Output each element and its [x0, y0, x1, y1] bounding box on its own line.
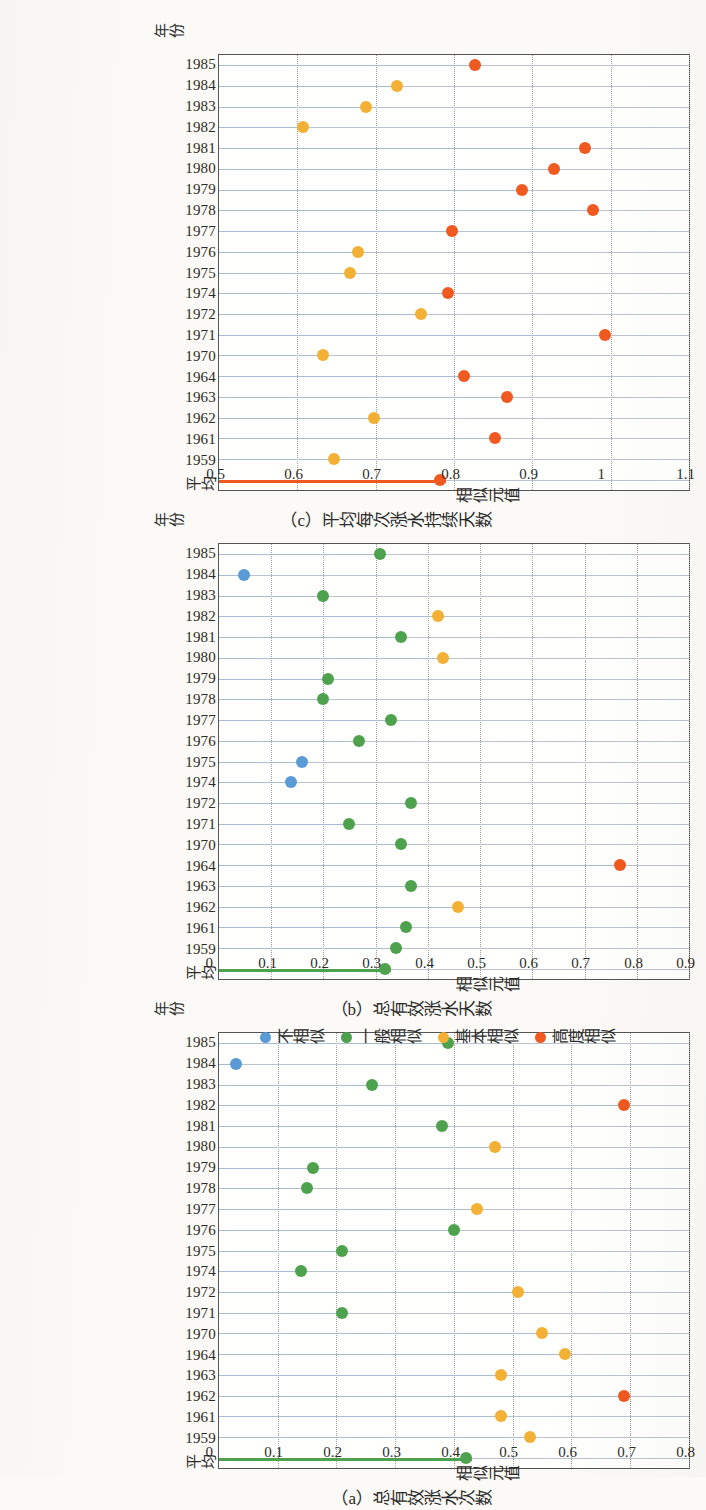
category-label: 1972	[185, 795, 216, 812]
data-point[interactable]	[374, 548, 386, 560]
category-label: 1974	[185, 774, 216, 791]
data-point[interactable]	[618, 1390, 630, 1402]
category-label: 1979	[185, 1159, 216, 1176]
gridline	[689, 1033, 690, 1468]
data-point[interactable]	[560, 1348, 572, 1360]
data-point[interactable]	[395, 838, 407, 850]
category-label: 1976	[185, 733, 216, 750]
data-point[interactable]	[489, 1141, 501, 1153]
category-label: 1962	[185, 410, 216, 427]
data-point[interactable]	[400, 921, 412, 933]
data-point[interactable]	[548, 163, 560, 175]
data-point[interactable]	[391, 80, 403, 92]
category-label: 1961	[185, 431, 216, 448]
category-label: 1962	[185, 1388, 216, 1405]
data-point[interactable]	[405, 797, 417, 809]
data-point[interactable]	[301, 1182, 313, 1194]
category-label: 1982	[185, 1097, 216, 1114]
category-label: 1974	[185, 285, 216, 302]
data-point[interactable]	[317, 349, 329, 361]
data-point[interactable]	[437, 652, 449, 664]
category-label: 1977	[185, 223, 216, 240]
category-label: 1964	[185, 858, 216, 875]
value-tick-label: 0.6	[519, 955, 538, 972]
data-point[interactable]	[614, 859, 626, 871]
category-label: 1980	[185, 160, 216, 177]
data-point[interactable]	[336, 1307, 348, 1319]
value-tick-label: 0	[206, 1444, 214, 1461]
stem-1964	[219, 865, 626, 866]
data-point[interactable]	[442, 287, 454, 299]
stem-1980	[219, 658, 449, 659]
data-point[interactable]	[579, 142, 591, 154]
category-label: 1964	[185, 369, 216, 386]
data-point[interactable]	[469, 59, 481, 71]
data-point[interactable]	[446, 225, 458, 237]
value-tick-label: 0.9	[519, 466, 538, 483]
data-point[interactable]	[343, 818, 355, 830]
stem-1964	[219, 376, 470, 377]
data-point[interactable]	[238, 569, 250, 581]
data-point[interactable]	[366, 1079, 378, 1091]
data-point[interactable]	[296, 756, 308, 768]
legend-label: 不相似	[277, 1026, 325, 1050]
panel-caption-c: （c）平均每次涨水持续天数	[280, 508, 492, 533]
data-point[interactable]	[495, 1369, 507, 1381]
data-point[interactable]	[432, 610, 444, 622]
data-point[interactable]	[618, 1099, 630, 1111]
legend-label: 一般相似	[358, 1026, 422, 1050]
category-label: 1978	[185, 691, 216, 708]
data-point[interactable]	[513, 1286, 525, 1298]
data-point[interactable]	[297, 121, 309, 133]
data-point[interactable]	[307, 1162, 319, 1174]
legend-item[interactable]: 基本相似	[438, 1026, 519, 1050]
category-label: 1975	[185, 265, 216, 282]
value-tick-label: 0.4	[441, 1444, 460, 1461]
value-axis-label: 相似元值	[456, 1463, 520, 1487]
category-label: 1985	[185, 56, 216, 73]
stem-1959	[219, 459, 340, 460]
data-point[interactable]	[452, 901, 464, 913]
data-point[interactable]	[458, 370, 470, 382]
data-point[interactable]	[495, 1410, 507, 1422]
data-point[interactable]	[322, 673, 334, 685]
data-point[interactable]	[415, 308, 427, 320]
stem-1971	[219, 824, 355, 825]
legend-item[interactable]: 一般相似	[341, 1026, 422, 1050]
stem-1972	[219, 803, 417, 804]
data-point[interactable]	[344, 267, 356, 279]
data-point[interactable]	[395, 631, 407, 643]
data-point[interactable]	[471, 1203, 483, 1215]
data-point[interactable]	[295, 1265, 307, 1277]
data-point[interactable]	[448, 1224, 460, 1236]
value-tick-label: 0.5	[206, 466, 225, 483]
category-label: 1980	[185, 649, 216, 666]
data-point[interactable]	[536, 1327, 548, 1339]
data-point[interactable]	[336, 1245, 348, 1257]
data-point[interactable]	[385, 714, 397, 726]
data-point[interactable]	[587, 204, 599, 216]
data-point[interactable]	[368, 412, 380, 424]
data-point[interactable]	[285, 776, 297, 788]
data-point[interactable]	[405, 880, 417, 892]
data-point[interactable]	[317, 693, 329, 705]
category-label: 1970	[185, 348, 216, 365]
stem-1977	[219, 1209, 483, 1210]
legend-swatch-icon	[535, 1033, 546, 1044]
data-point[interactable]	[353, 735, 365, 747]
category-axis-b: 1985198419831982198119801979197819771976…	[122, 543, 218, 980]
data-point[interactable]	[436, 1120, 448, 1132]
data-point[interactable]	[599, 329, 611, 341]
data-point[interactable]	[317, 590, 329, 602]
data-point[interactable]	[352, 246, 364, 258]
data-point[interactable]	[231, 1058, 243, 1070]
data-point[interactable]	[489, 432, 501, 444]
legend-item[interactable]: 不相似	[260, 1026, 325, 1050]
data-point[interactable]	[360, 101, 372, 113]
data-point[interactable]	[501, 391, 513, 403]
stem-1978	[219, 1188, 313, 1189]
category-label: 1983	[185, 1076, 216, 1093]
legend-item[interactable]: 高度相似	[535, 1026, 616, 1050]
data-point[interactable]	[516, 184, 528, 196]
stem-1961	[219, 438, 501, 439]
